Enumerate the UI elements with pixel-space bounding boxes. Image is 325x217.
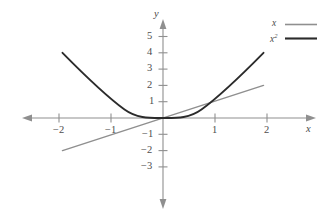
- y-tick-label-2: 2: [147, 80, 152, 91]
- y-axis-arrow-bottom: [160, 199, 167, 209]
- y-tick-label-4: 4: [147, 47, 152, 58]
- x-tick-label-2: 2: [264, 125, 269, 136]
- legend-label-x: x: [272, 19, 276, 29]
- y-axis: [160, 19, 167, 209]
- legend-label-x2: x2: [270, 33, 277, 45]
- y-tick-label-5: 5: [147, 31, 152, 42]
- x-tick-label--1: −1: [105, 125, 116, 136]
- legend-label-x2-exponent: 2: [274, 32, 277, 39]
- y-tick-label--2: −2: [141, 145, 152, 156]
- x-tick-label--2: −2: [53, 125, 64, 136]
- x-axis-label: x: [306, 124, 311, 135]
- x-tick-label-1: 1: [212, 125, 217, 136]
- x-axis-arrow-right: [306, 115, 316, 122]
- y-tick-label-1: 1: [149, 96, 154, 107]
- y-tick-label--1: −1: [142, 129, 153, 140]
- y-axis-label: y: [154, 9, 159, 20]
- y-tick-label--3: −3: [141, 161, 152, 172]
- x-axis-arrow-left: [22, 115, 32, 122]
- graph-figure: y x −2 −1 1 2 5 4 3 2 1 −1 −2 −3 x x2: [0, 0, 325, 217]
- legend-label-x-text: x: [272, 18, 276, 28]
- y-axis-arrow-top: [160, 19, 167, 29]
- y-tick-label-3: 3: [147, 63, 152, 74]
- legend-swatches: [285, 25, 317, 39]
